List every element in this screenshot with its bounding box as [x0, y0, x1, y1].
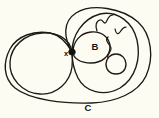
singular-point-node — [69, 49, 76, 55]
outer-curve-C — [5, 8, 150, 103]
small-circle — [106, 54, 126, 74]
right-lobe-circle — [72, 13, 138, 92]
upper-wavy-arc-group — [96, 14, 114, 31]
upper-wavy-arc — [96, 14, 114, 31]
diagram-svg: x B C — [0, 0, 159, 118]
label-B: B — [92, 41, 99, 52]
outer-curve-C-group — [5, 8, 150, 103]
figure-canvas: x B C — [0, 0, 159, 118]
small-circle-group — [106, 54, 126, 74]
left-lobe-circle — [10, 33, 73, 94]
small-wavy-tick-group — [115, 27, 126, 34]
small-wavy-tick — [115, 27, 126, 34]
label-C: C — [85, 102, 92, 113]
left-lobe-circle-group — [10, 33, 73, 94]
right-lobe-circle-group — [72, 13, 138, 92]
label-x: x — [64, 49, 69, 58]
singular-point-node-group — [69, 49, 76, 55]
